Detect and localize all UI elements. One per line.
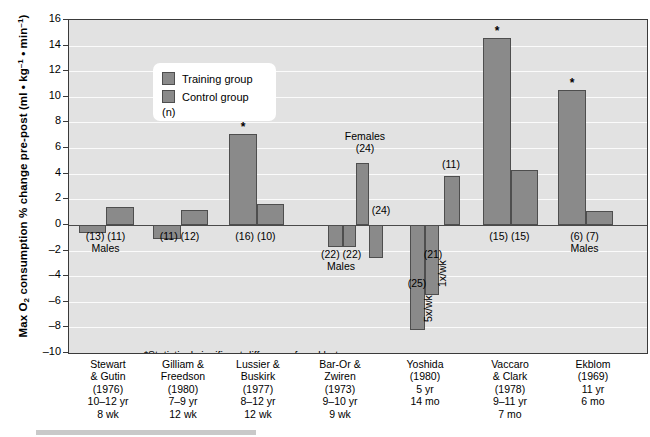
x-axis-label-line: 12 wk	[218, 408, 298, 420]
x-axis-label-line: 8–12 yr	[218, 395, 298, 407]
x-axis-label-line: & Clark	[470, 370, 550, 382]
y-tick-label: 4	[33, 167, 61, 178]
y-tick-label: 2	[33, 192, 61, 203]
y-axis-title: Max O2 consumption % change pre-post (ml…	[17, 4, 29, 349]
x-axis-label-line: 5 yr	[385, 383, 465, 395]
y-tick-label: 16	[33, 13, 61, 24]
x-axis-label-line: 7 mo	[470, 408, 550, 420]
bar	[257, 204, 284, 224]
x-axis-label-line: 9 wk	[300, 408, 380, 420]
y-tick-label: –4	[33, 269, 61, 280]
significance-marker: *	[229, 123, 257, 131]
y-tick-label: 8	[33, 115, 61, 126]
bar-annotation: (6) (7)	[557, 230, 612, 242]
x-axis-label-line: 11 yr	[553, 383, 633, 395]
x-axis-label-line: 9–11 yr	[470, 395, 550, 407]
plot-area: *5x/wk1x/wk** Training group Control gro…	[68, 19, 648, 354]
bar-annotation: (15) (15)	[482, 230, 537, 242]
bar	[558, 90, 586, 224]
x-axis-label-line: 6 mo	[553, 395, 633, 407]
x-axis-study-label: Vaccaro& Clark(1978)9–11 yr7 mo	[470, 358, 550, 420]
bar-inline-label: 1x/wk	[437, 261, 448, 288]
x-axis-label-line: 10–12 yr	[68, 395, 148, 407]
gridline	[69, 327, 647, 328]
bar-annotation: (22) (22)	[321, 248, 361, 260]
y-tick-label: 6	[33, 141, 61, 152]
bar-annotation: (21)	[416, 248, 450, 260]
x-axis-label-line: Stewart	[68, 358, 148, 370]
legend-label-training: Training group	[182, 73, 253, 86]
x-axis-study-label: Bar-Or &Zwiren(1973)9–10 yr9 wk	[300, 358, 380, 420]
x-axis-study-label: Stewart& Gutin(1976)10–12 yr8 wk	[68, 358, 148, 420]
y-tick-label: –8	[33, 320, 61, 331]
gridline	[69, 276, 647, 277]
bar-annotation: Males	[321, 260, 361, 272]
bar	[369, 225, 383, 258]
y-axis-subscript: 2	[22, 298, 31, 303]
bar-annotation: (24)	[358, 204, 404, 216]
bar-annotation: (13) (11)	[78, 230, 133, 242]
x-axis-label-line: (1977)	[218, 383, 298, 395]
x-axis-label-line: Lussier &	[218, 358, 298, 370]
x-axis-label-line: Freedson	[143, 370, 223, 382]
bar	[511, 170, 538, 225]
y-tick-label: 0	[33, 218, 61, 229]
bar	[483, 38, 511, 225]
legend: Training group Control group (n)	[153, 63, 276, 121]
bar	[328, 225, 343, 247]
y-tick-label: 14	[33, 39, 61, 50]
x-axis-label-line: (1973)	[300, 383, 380, 395]
x-axis-label-line: 8 wk	[68, 408, 148, 420]
legend-swatch-control	[162, 90, 175, 103]
x-axis-label-line: Ekblom	[553, 358, 633, 370]
x-axis-study-label: Gilliam &Freedson(1980)7–9 yr12 wk	[143, 358, 223, 420]
x-axis-label-line: 14 mo	[385, 395, 465, 407]
footnote: *Statistical significant difference foun…	[144, 349, 398, 354]
y-tick-label: –6	[33, 295, 61, 306]
x-axis-study-label: Ekblom(1969)11 yr6 mo	[553, 358, 633, 408]
bar-annotation: Females	[336, 130, 394, 142]
significance-marker: *	[483, 27, 511, 35]
x-axis-label-line: (1980)	[143, 383, 223, 395]
x-axis-study-label: Lussier &Buskirk(1977)8–12 yr12 wk	[218, 358, 298, 420]
x-axis-label-line: & Gutin	[68, 370, 148, 382]
x-axis-label-line: (1976)	[68, 383, 148, 395]
x-axis-label-line: Zwiren	[300, 370, 380, 382]
bar-inline-label: 5x/wk	[423, 295, 434, 322]
x-axis-label-line: 12 wk	[143, 408, 223, 420]
x-axis-label-line: Gilliam &	[143, 358, 223, 370]
x-axis-label-line: Bar-Or &	[300, 358, 380, 370]
x-axis-label-line: Vaccaro	[470, 358, 550, 370]
x-axis-label-line: (1980)	[385, 370, 465, 382]
bar-annotation: (24)	[336, 142, 394, 154]
bar	[586, 211, 613, 225]
x-axis-study-label: Yoshida(1980)5 yr14 mo	[385, 358, 465, 408]
x-axis-label-line: 9–10 yr	[300, 395, 380, 407]
y-tick-label: 10	[33, 90, 61, 101]
bar	[181, 210, 208, 225]
x-axis-label-line: (1969)	[553, 370, 633, 382]
bar-annotation: (11)	[434, 158, 468, 170]
legend-swatch-training	[162, 72, 175, 85]
x-axis-label-line: 7–9 yr	[143, 395, 223, 407]
legend-label-control: Control group	[182, 91, 249, 104]
bar-annotation: (16) (10)	[228, 230, 283, 242]
significance-marker: *	[558, 79, 586, 87]
x-axis-label-line: Yoshida	[385, 358, 465, 370]
bar-annotation: Males	[78, 242, 133, 254]
x-axis-label-line: (1978)	[470, 383, 550, 395]
bar-annotation: (25)	[400, 277, 434, 289]
legend-label-n: (n)	[162, 106, 175, 119]
gridline	[69, 302, 647, 303]
bar-annotation: (11) (12)	[152, 230, 207, 242]
bar	[106, 207, 134, 225]
y-tick-label: –10	[33, 346, 61, 357]
bar	[229, 134, 257, 225]
gridline	[69, 46, 647, 47]
caption-bar	[36, 430, 256, 435]
x-axis-label-line: Buskirk	[218, 370, 298, 382]
y-tick-label: 12	[33, 64, 61, 75]
bar-annotation: Males	[557, 242, 612, 254]
bar	[343, 225, 356, 247]
y-tick-label: –2	[33, 244, 61, 255]
